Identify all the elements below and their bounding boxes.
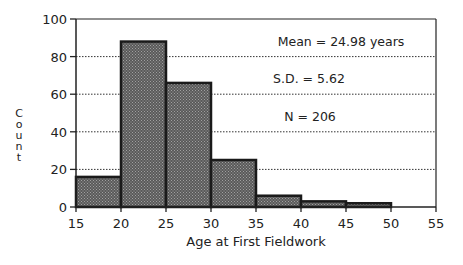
stats-annotations: Mean = 24.98 years S.D. = 5.62 N = 206 <box>273 34 404 124</box>
x-axis-label: Age at First Fieldwork <box>76 234 436 249</box>
histogram-bar <box>256 196 301 207</box>
mean-annotation: Mean = 24.98 years <box>278 34 405 49</box>
histogram-bar <box>76 177 121 207</box>
histogram-chart: 020406080100152025303540455055 Mean = 24… <box>0 0 463 265</box>
y-tick-label: 20 <box>50 162 67 177</box>
x-tick-label: 40 <box>293 216 310 231</box>
histogram-bar <box>166 83 211 207</box>
y-tick-label: 80 <box>50 50 67 65</box>
histogram-bar <box>121 42 166 207</box>
x-tick-label: 50 <box>383 216 400 231</box>
n-annotation: N = 206 <box>284 109 336 124</box>
y-tick-label: 60 <box>50 87 67 102</box>
y-tick-label: 100 <box>42 12 67 27</box>
y-tick-label: 40 <box>50 125 67 140</box>
histogram-bar <box>301 201 346 207</box>
sd-annotation: S.D. = 5.62 <box>273 71 345 86</box>
y-tick-label: 0 <box>59 200 67 215</box>
x-tick-label: 35 <box>248 216 265 231</box>
x-tick-label: 55 <box>428 216 445 231</box>
x-tick-label: 20 <box>113 216 130 231</box>
x-tick-label: 30 <box>203 216 220 231</box>
histogram-bar <box>211 160 256 207</box>
y-axis-label: Count <box>12 108 26 163</box>
x-tick-label: 25 <box>158 216 175 231</box>
x-tick-label: 15 <box>68 216 85 231</box>
x-tick-label: 45 <box>338 216 355 231</box>
histogram-bars <box>76 42 391 207</box>
